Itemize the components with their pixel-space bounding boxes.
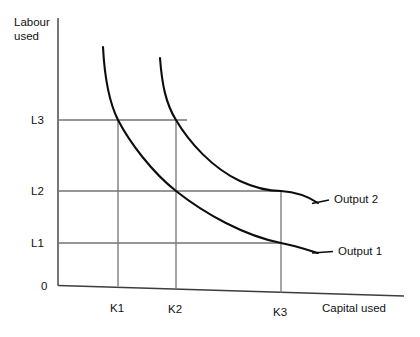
series-label-output-1: Output 1 [338, 245, 382, 257]
y-tick-label-l3: L3 [31, 114, 44, 126]
y-tick-label-l2: L2 [31, 185, 44, 197]
x-axis-line [58, 286, 404, 297]
isoquant-curve-output-1 [103, 47, 318, 253]
x-axis-title: Capital used [322, 302, 386, 314]
y-tick-label-l1: L1 [31, 237, 44, 249]
x-tick-label-k3: K3 [273, 306, 287, 318]
x-tick-label-k1: K1 [110, 302, 124, 314]
origin-label: 0 [41, 280, 47, 292]
series-label-output-2: Output 2 [334, 193, 378, 205]
isoquant-chart: Labour used Capital used 0 L3 L2 L1 K1 K… [0, 0, 420, 337]
chart-canvas: Labour used Capital used 0 L3 L2 L1 K1 K… [0, 0, 420, 337]
x-tick-label-k2: K2 [168, 303, 182, 315]
y-axis-title-line2: used [14, 30, 39, 42]
isoquant-curve-output-2 [160, 58, 318, 203]
y-axis-title-line1: Labour [14, 16, 50, 28]
